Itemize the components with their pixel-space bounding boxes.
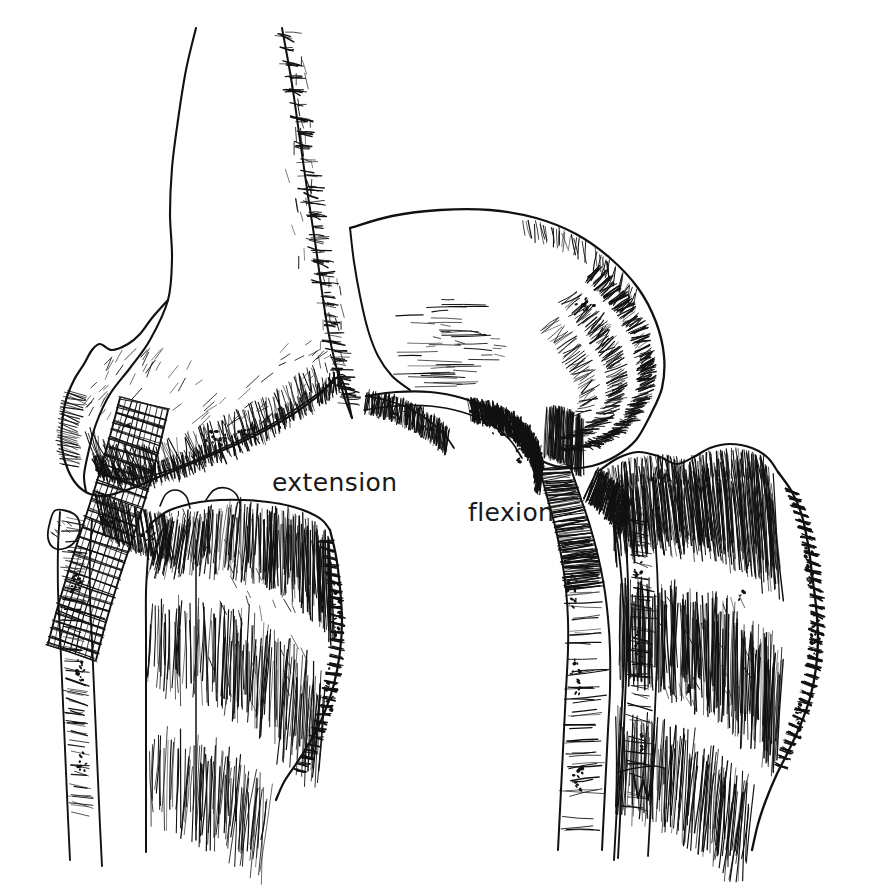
label-flexion: flexion (468, 500, 554, 525)
anatomical-figure: extension flexion (0, 0, 877, 889)
knee-joint-illustration (0, 0, 877, 889)
label-extension: extension (272, 470, 397, 495)
